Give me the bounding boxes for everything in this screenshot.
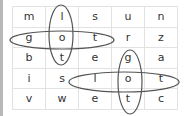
- grid-row: g o t r z: [13, 27, 178, 48]
- grid-cell[interactable]: s: [79, 7, 112, 28]
- grid-cell[interactable]: e: [79, 89, 112, 110]
- grid-cell[interactable]: t: [46, 48, 79, 69]
- grid-row: v w e t c: [13, 89, 178, 110]
- grid-cell[interactable]: l: [79, 68, 112, 89]
- grid-cell[interactable]: c: [145, 89, 178, 110]
- grid-cell[interactable]: o: [112, 68, 145, 89]
- grid-cell[interactable]: r: [112, 27, 145, 48]
- grid-cell[interactable]: i: [13, 68, 46, 89]
- word-search-grid: m l s u n g o t r z b t e g a i s l o t …: [12, 6, 178, 110]
- left-border: [0, 0, 3, 116]
- grid-cell[interactable]: t: [145, 68, 178, 89]
- grid-cell[interactable]: w: [46, 89, 79, 110]
- grid-cell[interactable]: t: [79, 27, 112, 48]
- grid-row: i s l o t: [13, 68, 178, 89]
- grid-cell[interactable]: m: [13, 7, 46, 28]
- grid-cell[interactable]: n: [145, 7, 178, 28]
- grid-cell[interactable]: o: [46, 27, 79, 48]
- grid-cell[interactable]: a: [145, 48, 178, 69]
- grid-cell[interactable]: e: [79, 48, 112, 69]
- grid-cell[interactable]: l: [46, 7, 79, 28]
- grid-cell[interactable]: t: [112, 89, 145, 110]
- grid-cell[interactable]: s: [46, 68, 79, 89]
- grid-cell[interactable]: b: [13, 48, 46, 69]
- grid-row: b t e g a: [13, 48, 178, 69]
- grid-cell[interactable]: v: [13, 89, 46, 110]
- grid-cell[interactable]: g: [13, 27, 46, 48]
- grid-cell[interactable]: z: [145, 27, 178, 48]
- grid-cell[interactable]: g: [112, 48, 145, 69]
- grid-row: m l s u n: [13, 7, 178, 28]
- grid-cell[interactable]: u: [112, 7, 145, 28]
